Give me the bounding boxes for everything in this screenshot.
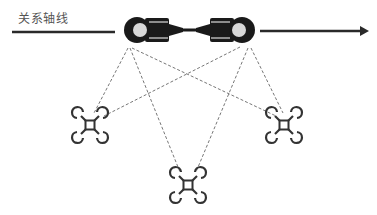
edge-right-person-left-drone (104, 47, 240, 116)
drone-left-icon (72, 107, 108, 143)
axis-arrow-right (260, 26, 369, 36)
sight-lines (94, 47, 283, 172)
person-right-figure (196, 17, 255, 43)
person-left-figure (124, 17, 183, 43)
edge-left-person-left-drone (94, 48, 128, 113)
edge-right-person-bottom-drone (196, 48, 248, 172)
hand-connection (183, 29, 197, 32)
diagram-canvas (0, 0, 377, 215)
edge-right-person-right-drone (251, 48, 283, 113)
edge-left-person-bottom-drone (130, 48, 180, 172)
drone-right-icon (266, 107, 302, 143)
drone-bottom-icon (170, 167, 206, 203)
